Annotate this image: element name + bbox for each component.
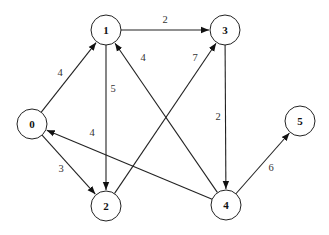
node-label: 3 (222, 24, 228, 36)
node-2: 2 (91, 191, 121, 221)
node-3: 3 (210, 15, 240, 45)
node-4: 4 (211, 190, 241, 220)
edge-weight-4-5: 6 (268, 162, 273, 173)
edge-4-to-5 (236, 133, 290, 194)
edges-layer: 432572446 (41, 14, 289, 200)
edge-4-to-0 (47, 130, 212, 199)
edge-weight-0-2: 3 (58, 163, 63, 174)
graph-diagram: 432572446 012345 (0, 0, 329, 235)
edge-weight-3-4: 2 (215, 111, 220, 122)
edge-weight-4-0: 4 (89, 127, 95, 138)
edge-weight-1-3: 2 (162, 14, 167, 25)
node-label: 5 (297, 115, 303, 127)
edge-weight-4-1: 4 (140, 52, 146, 63)
edge-weight-0-1: 4 (57, 67, 63, 78)
node-5: 5 (285, 106, 315, 136)
edge-weight-1-2: 5 (110, 83, 115, 94)
edge-weight-2-3: 7 (192, 52, 197, 63)
edge-0-to-2 (42, 135, 95, 194)
node-label: 2 (103, 200, 109, 212)
node-label: 4 (223, 199, 229, 211)
node-label: 1 (103, 24, 109, 36)
edge-0-to-1 (41, 43, 96, 113)
node-label: 0 (29, 118, 35, 130)
edge-3-to-4 (225, 45, 226, 189)
node-0: 0 (17, 109, 47, 139)
edge-2-to-3 (114, 43, 216, 193)
node-1: 1 (91, 15, 121, 45)
